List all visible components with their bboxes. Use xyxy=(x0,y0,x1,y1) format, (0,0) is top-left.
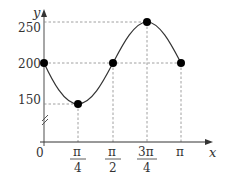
tick-denominator: 4 xyxy=(143,161,151,175)
y-axis-label: y xyxy=(32,5,41,20)
origin-label: 0 xyxy=(36,146,44,160)
y-tick-250: 250 xyxy=(18,21,41,35)
y-tick-150: 150 xyxy=(18,93,41,107)
x-tick-pi-2: π 2 xyxy=(105,145,121,175)
y-axis-arrow-icon xyxy=(41,9,47,17)
axis-break-icon xyxy=(42,115,48,125)
tick-denominator: 4 xyxy=(74,161,82,175)
x-axis-label: x xyxy=(209,145,217,160)
x-tick-pi: π xyxy=(176,145,184,159)
tick-numerator: π xyxy=(108,145,116,159)
tick-numerator: π xyxy=(73,145,81,159)
sine-graph: y 250 200 150 0 x π 4 π 2 3π 4 π xyxy=(0,0,227,181)
y-tick-200: 200 xyxy=(18,57,41,71)
guide-lines xyxy=(44,22,181,142)
x-tick-3pi-4: 3π 4 xyxy=(137,145,157,175)
x-tick-pi-4: π 4 xyxy=(70,145,86,175)
tick-numerator: 3π xyxy=(138,145,154,159)
tick-denominator: 2 xyxy=(109,161,117,175)
